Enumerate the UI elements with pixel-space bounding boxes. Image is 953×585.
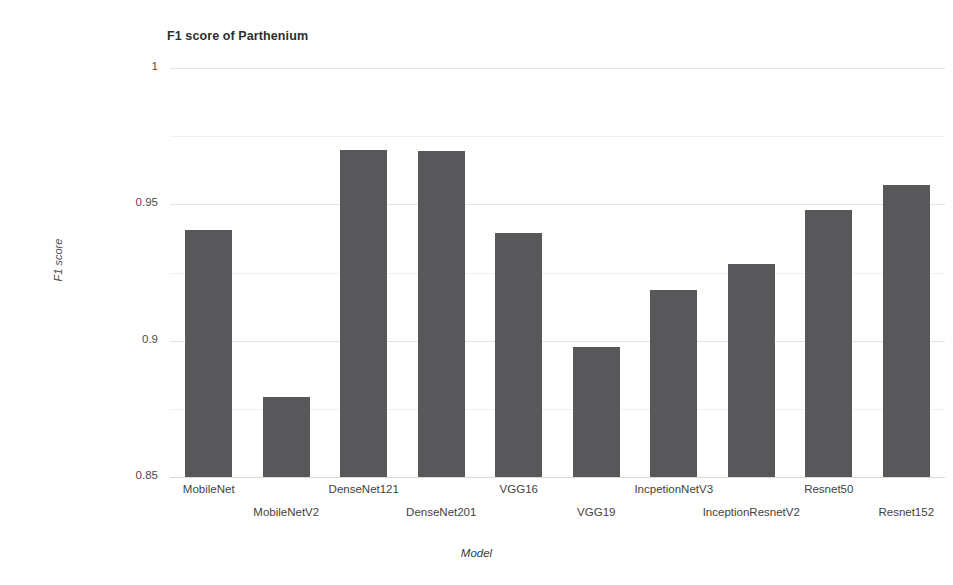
x-tick-label: DenseNet121: [329, 483, 399, 495]
x-tick-label: Resnet50: [804, 483, 853, 495]
bar: [573, 347, 620, 477]
x-tick-label: VGG19: [577, 506, 615, 518]
y-axis-title: F1 score: [52, 200, 64, 320]
y-tick-label: 0.9: [98, 333, 158, 345]
gridline-major: [170, 204, 945, 205]
bar: [263, 397, 310, 477]
y-tick-label: 0.85: [98, 469, 158, 481]
bar: [340, 150, 387, 477]
bar: [650, 290, 697, 477]
x-tick-label: IncpetionNetV3: [634, 483, 713, 495]
x-axis-line: [170, 477, 945, 478]
y-tick-label: 1: [98, 60, 158, 72]
x-tick-label: InceptionResnetV2: [703, 506, 800, 518]
plot-area: [170, 68, 945, 477]
x-tick-label: MobileNetV2: [253, 506, 319, 518]
chart-title: F1 score of Parthenium: [167, 29, 308, 43]
bar: [185, 230, 232, 477]
bar: [728, 264, 775, 477]
x-tick-label: Resnet152: [878, 506, 934, 518]
x-axis-title: Model: [0, 547, 953, 559]
x-tick-label: MobileNet: [183, 483, 235, 495]
bar: [805, 210, 852, 477]
bar: [418, 151, 465, 477]
bar: [883, 185, 930, 477]
gridline-minor: [170, 136, 945, 137]
gridline-major: [170, 68, 945, 69]
y-tick-label: 0.95: [98, 196, 158, 208]
x-tick-label: VGG16: [500, 483, 538, 495]
chart-figure: F1 score of Parthenium F1 score 0.850.90…: [0, 0, 953, 585]
x-tick-label: DenseNet201: [406, 506, 476, 518]
bar: [495, 233, 542, 477]
